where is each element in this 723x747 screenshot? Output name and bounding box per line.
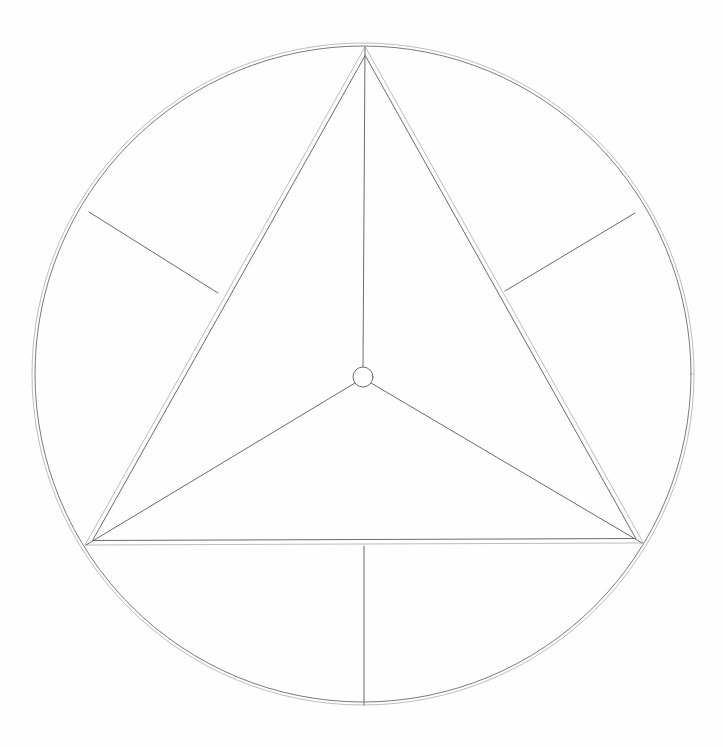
center-hub-circle <box>353 367 373 387</box>
figure-canvas <box>0 0 723 747</box>
geometry-diagram <box>0 0 723 747</box>
